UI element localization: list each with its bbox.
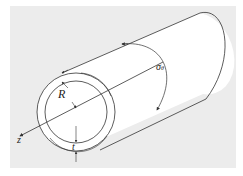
radius-label: R xyxy=(58,88,65,100)
z-axis-label: z xyxy=(17,135,21,145)
hoop-stress-label: σθ xyxy=(156,62,164,72)
thickness-label: t xyxy=(72,142,75,152)
stress-subscript: θ xyxy=(161,65,164,71)
cylinder-diagram xyxy=(0,0,243,176)
